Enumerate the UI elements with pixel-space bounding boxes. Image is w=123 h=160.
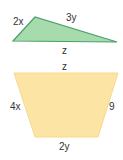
trapezoid-label-top: z	[62, 61, 67, 72]
triangle-figure: 2x 3y z	[13, 12, 117, 56]
triangle-label-bottom: z	[62, 45, 67, 56]
trapezoid-shape	[14, 73, 118, 137]
trapezoid-label-right: 9	[109, 101, 115, 112]
triangle-label-top: 3y	[66, 12, 77, 23]
trapezoid-figure: z 4x 9 2y	[10, 61, 118, 152]
trapezoid-label-bottom: 2y	[59, 141, 70, 152]
diagram-canvas: 2x 3y z z 4x 9 2y	[0, 0, 123, 160]
triangle-shape	[13, 17, 117, 42]
triangle-label-left: 2x	[13, 16, 24, 27]
trapezoid-label-left: 4x	[10, 101, 21, 112]
